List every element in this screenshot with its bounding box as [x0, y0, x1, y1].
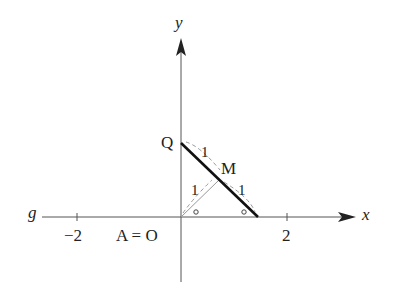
angle-mark-origin-icon: [194, 210, 198, 214]
segment-OM: [181, 180, 219, 217]
length-OM-label: 1: [191, 183, 199, 198]
point-Q-label: Q: [161, 134, 173, 151]
point-M-label: M: [221, 160, 236, 177]
x-axis-label: x: [362, 206, 370, 223]
origin-label: A = O: [116, 227, 158, 244]
length-M-xaxis-label: 1: [238, 183, 246, 198]
line-g-label: g: [28, 204, 37, 221]
length-QM-label: 1: [201, 145, 209, 160]
tick-label-2: 2: [282, 227, 291, 244]
y-axis-label: y: [175, 14, 183, 31]
diagram-canvas: [0, 0, 398, 298]
angle-mark-xaxis-icon: [242, 210, 246, 214]
tick-label-minus-2: −2: [64, 227, 82, 244]
